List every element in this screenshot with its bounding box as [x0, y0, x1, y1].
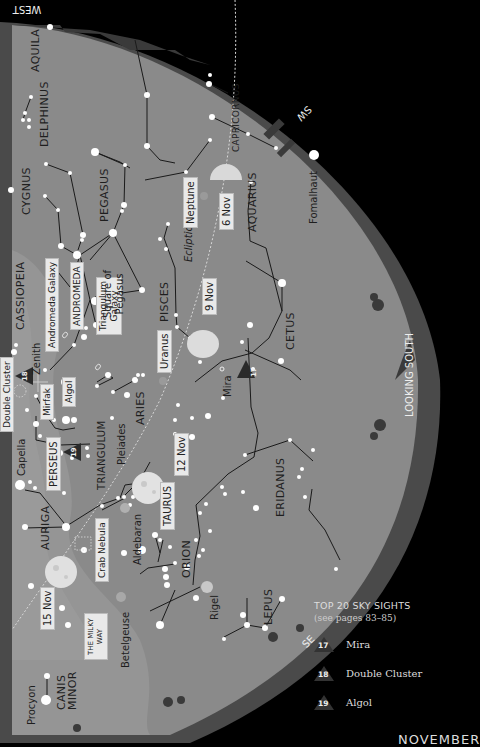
moon-date-6-nov: 6 Nov — [219, 193, 234, 230]
triangle-icon: 19 — [314, 695, 334, 710]
constellation-andromeda: ANDROMEDA — [70, 262, 84, 330]
constellation-lepus: LEPUS — [262, 589, 275, 625]
constellation-pegasus: PEGASUS — [98, 168, 111, 222]
label-zenith: Zenith — [31, 343, 42, 375]
star-mira: Mira — [222, 375, 233, 397]
marker-19-number: 19 — [70, 447, 78, 457]
constellation-orion: ORION — [180, 540, 193, 578]
constellation-cassiopeia: CASSIOPEIA — [14, 262, 27, 330]
moon-15-nov — [45, 556, 77, 588]
constellation-triangulum: TRIANGULUM — [96, 421, 107, 490]
label-neptune: Neptune — [183, 177, 198, 228]
label-double-cluster: Double Cluster — [0, 357, 14, 432]
uranus-planet — [159, 377, 167, 385]
label-square-of-pegasus: Square of Pegasus — [102, 270, 126, 318]
constellation-capricornus: CAPRICORNUS — [231, 83, 241, 152]
label-andromeda-galaxy: Andromeda Galaxy — [45, 258, 59, 352]
label-pleiades: Pleiades — [116, 423, 127, 465]
neptune-planet — [200, 192, 208, 200]
constellation-cetus: CETUS — [284, 312, 297, 350]
star-capella: Capella — [16, 439, 27, 476]
square-of-pegasus-line-2: Pegasus — [114, 270, 126, 318]
label-uranus: Uranus — [157, 330, 172, 373]
label-crab-nebula: Crab Nebula — [95, 518, 109, 582]
constellation-aries: ARIES — [134, 391, 147, 425]
triangle-icon: 17 — [314, 637, 334, 652]
constellation-perseus: PERSEUS — [46, 437, 61, 491]
legend-item-algol: 19 Algol — [314, 695, 422, 710]
square-of-pegasus-line-1: Square of — [102, 270, 114, 318]
star-rigel: Rigel — [209, 595, 220, 620]
constellation-eridanus: ERIDANUS — [274, 458, 287, 517]
sky-sights-legend: TOP 20 SKY SIGHTS (see pages 83–85) 17 M… — [314, 600, 422, 710]
label-ecliptic: Ecliptic — [183, 226, 194, 262]
constellation-cygnus: CYGNUS — [20, 167, 33, 215]
star-mirfak: Mirfak — [40, 384, 54, 420]
triangle-icon: 18 — [314, 666, 334, 681]
rigel-star — [201, 581, 213, 593]
marker-17-number: 17 — [250, 367, 258, 377]
aldebaran-star — [120, 503, 130, 513]
star-fomalhaut: Fomalhaut — [308, 171, 319, 224]
moon-date-15-nov: 15 Nov — [40, 587, 55, 630]
star-algol: Algol — [62, 377, 76, 407]
legend-item-mira: 17 Mira — [314, 637, 422, 652]
star-betelgeuse: Betelgeuse — [120, 612, 131, 668]
milky-way-line-1: THE MILKY — [87, 618, 96, 655]
star-aldebaran: Aldebaran — [132, 514, 143, 565]
direction-west: WEST — [8, 4, 46, 15]
constellation-auriga: AURIGA — [39, 506, 52, 550]
legend-subtitle: (see pages 83–85) — [314, 613, 422, 623]
constellation-canis-minor: CANIS MINOR — [56, 660, 78, 710]
marker-18-number: 18 — [21, 371, 29, 381]
direction-looking-south: LOOKING SOUTH — [404, 333, 415, 417]
betelgeuse-star — [116, 592, 126, 602]
star-procyon: Procyon — [26, 685, 37, 725]
constellation-pisces: PISCES — [158, 282, 171, 322]
constellation-aquila: AQUILA — [29, 29, 42, 72]
constellation-taurus: TAURUS — [160, 482, 175, 530]
legend-title: TOP 20 SKY SIGHTS — [314, 600, 422, 611]
legend-item-label: Double Cluster — [346, 668, 422, 679]
legend-item-label: Mira — [346, 639, 370, 650]
milky-way-line-2: WAY — [96, 618, 105, 655]
label-milky-way: THE MILKY WAY — [84, 613, 108, 660]
legend-item-label: Algol — [346, 697, 372, 708]
moon-9-nov — [187, 330, 219, 358]
constellation-aquarius: AQUARIUS — [246, 172, 259, 232]
legend-item-double-cluster: 18 Double Cluster — [314, 666, 422, 681]
constellation-delphinus: DELPHINUS — [38, 81, 51, 147]
month-title: NOVEMBER — [398, 732, 480, 747]
moon-date-12-nov: 12 Nov — [174, 433, 189, 476]
moon-date-9-nov: 9 Nov — [202, 278, 217, 315]
